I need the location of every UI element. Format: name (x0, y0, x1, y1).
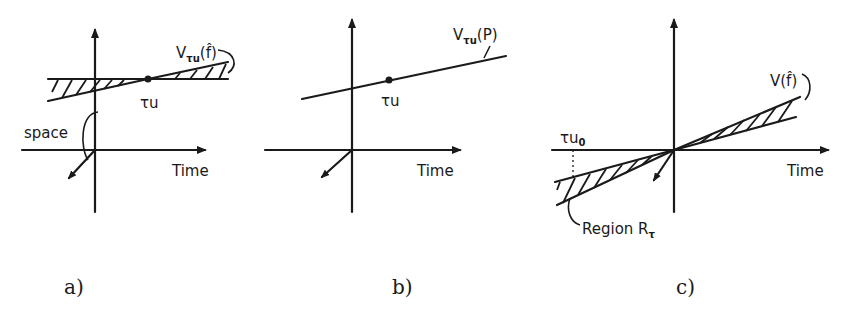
line-label-b: Vτu(P) (453, 26, 498, 46)
region-label-c: Region Rτ (582, 220, 656, 240)
cone-pointer-c (802, 74, 810, 100)
space-depth-axis (69, 150, 95, 178)
panel-c: τu0 V(f̂) Time Region Rτ c) (552, 20, 828, 299)
caption-b: b) (392, 275, 413, 299)
space-depth-axis-b (322, 150, 352, 177)
cone-label-c: V(f̂) (770, 71, 797, 90)
point-label-b: τu (381, 92, 400, 110)
point-tu-b (386, 77, 393, 84)
panel-b: τu Vτu(P) Time b) (265, 20, 506, 299)
space-label: space (24, 124, 68, 142)
panel-a: τu Vτu(f̂) space Time a) (22, 30, 234, 299)
tick-label-tu0: τu0 (560, 129, 586, 148)
caption-a: a) (64, 275, 84, 299)
point-label-a: τu (140, 94, 159, 112)
figure: τu Vτu(f̂) space Time a) τu Vτu(P) Time … (0, 0, 847, 313)
point-tu-a (145, 76, 152, 83)
hatched-region-a (48, 62, 228, 101)
caption-c: c) (676, 275, 695, 299)
diagram-canvas: τu Vτu(f̂) space Time a) τu Vτu(P) Time … (0, 0, 847, 313)
line-pointer-b (484, 46, 490, 58)
region-pointer-c (568, 198, 580, 225)
cone-future (674, 97, 800, 150)
trajectory-line-b (302, 56, 506, 99)
region-label-a: Vτu(f̂) (176, 43, 217, 64)
time-label-b: Time (416, 162, 454, 180)
time-label-a: Time (171, 162, 209, 180)
time-label-c: Time (786, 162, 824, 180)
